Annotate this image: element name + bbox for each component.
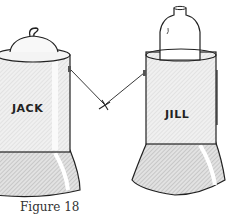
string: [71, 70, 144, 110]
figure-caption: Figure 18: [20, 200, 80, 214]
jack-can: JACK: [0, 28, 80, 197]
jill-label: JILL: [164, 108, 189, 121]
jill-can: JILL: [132, 6, 225, 195]
jack-label: JACK: [11, 102, 43, 115]
tin-can-telephone-illustration: JACK JILL: [0, 0, 233, 200]
cross-knot-icon: [99, 100, 110, 110]
